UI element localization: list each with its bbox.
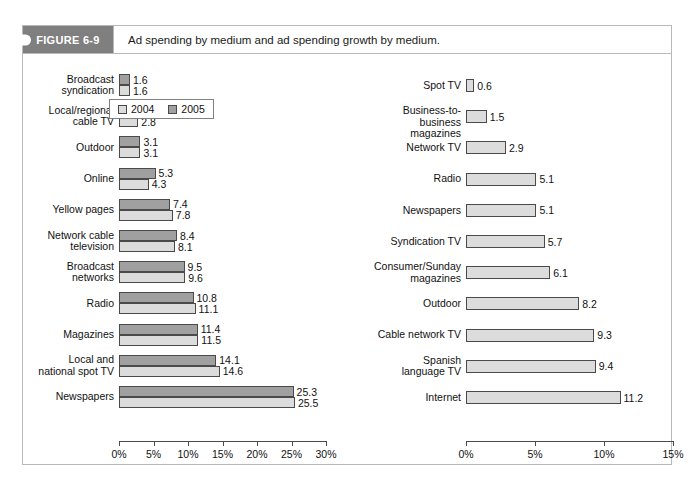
bar-value-label: 9.3 <box>597 329 612 341</box>
x-axis-tick <box>119 441 120 446</box>
bar-2004 <box>119 397 295 408</box>
charts-area: Broadcast syndication1.61.6Local/regiona… <box>23 54 671 464</box>
bar-2005 <box>119 74 130 85</box>
bar-value-label: 0.6 <box>477 80 492 92</box>
bar-value-label: 5.7 <box>548 236 563 248</box>
chart-ad-spending-by-medium: Broadcast syndication1.61.6Local/regiona… <box>23 54 363 464</box>
bar-value-label: 1.5 <box>490 111 505 123</box>
x-axis-tick-label: 10% <box>177 448 198 460</box>
bar-value-label: 5.1 <box>539 173 554 185</box>
bar-value-label: 2.9 <box>509 142 524 154</box>
x-axis-tick <box>257 441 258 446</box>
bar-value-label: 9.4 <box>599 360 614 372</box>
x-axis-tick <box>326 441 327 446</box>
x-axis-line <box>466 441 673 442</box>
bar-value-label: 11.2 <box>624 392 644 404</box>
category-label: Newspapers <box>28 391 114 403</box>
legend-label: 2004 <box>131 103 154 115</box>
bar-value-label: 11.5 <box>201 334 221 346</box>
category-label: Network TV <box>364 142 461 154</box>
legend-swatch-2005-icon <box>168 105 177 114</box>
category-label: Local and national spot TV <box>28 354 114 377</box>
category-label: Network cable television <box>28 230 114 253</box>
category-label: Broadcast networks <box>28 261 114 284</box>
legend-entry-2004: 2004 <box>118 103 154 115</box>
bar-growth <box>466 266 550 279</box>
category-label: Broadcast syndication <box>28 74 114 97</box>
bar-2005 <box>119 386 294 397</box>
bar-growth <box>466 110 487 123</box>
x-axis-tick <box>188 441 189 446</box>
bar-value-label: 1.6 <box>133 85 148 97</box>
x-axis-tick-label: 25% <box>281 448 302 460</box>
bar-growth <box>466 329 594 342</box>
bar-2005 <box>119 261 185 272</box>
bar-2004 <box>119 210 173 221</box>
bar-value-label: 7.8 <box>176 209 191 221</box>
bar-value-label: 14.6 <box>223 365 243 377</box>
x-axis-tick <box>292 441 293 446</box>
x-axis-tick <box>535 441 536 446</box>
bar-2004 <box>119 241 175 252</box>
bar-2004 <box>119 85 130 96</box>
x-axis-tick <box>466 441 467 446</box>
bar-value-label: 3.1 <box>143 147 158 159</box>
bar-2004 <box>119 366 220 377</box>
x-axis-tick-label: 15% <box>662 448 683 460</box>
bar-2005 <box>119 230 177 241</box>
x-axis-tick-label: 0% <box>458 448 473 460</box>
category-label: Consumer/Sunday magazines <box>364 261 461 284</box>
x-axis-tick-label: 30% <box>315 448 336 460</box>
bar-growth <box>466 360 596 373</box>
category-label: Radio <box>28 298 114 310</box>
bar-value-label: 9.6 <box>188 272 203 284</box>
bar-growth <box>466 204 536 217</box>
x-axis-tick-label: 5% <box>146 448 161 460</box>
legend-entry-2005: 2005 <box>168 103 204 115</box>
x-axis-tick-label: 10% <box>593 448 614 460</box>
x-axis-tick-label: 5% <box>527 448 542 460</box>
bar-2004 <box>119 147 140 158</box>
bar-growth <box>466 391 621 404</box>
bar-value-label: 11.1 <box>199 303 219 315</box>
x-axis-tick <box>223 441 224 446</box>
category-label: Outdoor <box>28 142 114 154</box>
chart-ad-spending-growth-by-medium: Spot TV0.6Business-to-business magazines… <box>363 54 671 464</box>
bar-value-label: 8.2 <box>582 298 597 310</box>
bar-growth <box>466 79 474 92</box>
bar-2004 <box>119 272 185 283</box>
bar-2005 <box>119 324 198 335</box>
bar-2004 <box>119 303 196 314</box>
figure-header: FIGURE 6-9 Ad spending by medium and ad … <box>23 26 671 54</box>
figure-number-label: FIGURE 6-9 <box>36 34 100 46</box>
bar-growth <box>466 235 545 248</box>
category-label: Radio <box>364 173 461 185</box>
legend-swatch-2004-icon <box>118 105 127 114</box>
category-label: Syndication TV <box>364 236 461 248</box>
category-label: Internet <box>364 392 461 404</box>
figure-number-badge: FIGURE 6-9 <box>23 26 113 53</box>
category-label: Business-to-business magazines <box>364 105 461 140</box>
category-label: Spot TV <box>364 80 461 92</box>
bar-growth <box>466 141 506 154</box>
category-label: Newspapers <box>364 205 461 217</box>
category-label: Magazines <box>28 329 114 341</box>
bar-value-label: 5.1 <box>539 204 554 216</box>
x-axis-tick <box>604 441 605 446</box>
category-label: Outdoor <box>364 298 461 310</box>
x-axis-tick-label: 20% <box>246 448 267 460</box>
category-label: Local/regional cable TV <box>28 105 114 128</box>
badge-notch-icon <box>22 34 31 45</box>
plot-area-right: Spot TV0.6Business-to-business magazines… <box>363 54 671 464</box>
bar-value-label: 6.1 <box>553 267 568 279</box>
figure-frame: FIGURE 6-9 Ad spending by medium and ad … <box>22 25 672 465</box>
bar-2004 <box>119 335 198 346</box>
x-axis-tick-label: 15% <box>212 448 233 460</box>
bar-growth <box>466 297 579 310</box>
bar-2005 <box>119 355 216 366</box>
bar-growth <box>466 173 536 186</box>
category-label: Yellow pages <box>28 204 114 216</box>
bar-value-label: 8.1 <box>178 241 193 253</box>
category-label: Spanish language TV <box>364 355 461 378</box>
bar-value-label: 4.3 <box>152 178 167 190</box>
